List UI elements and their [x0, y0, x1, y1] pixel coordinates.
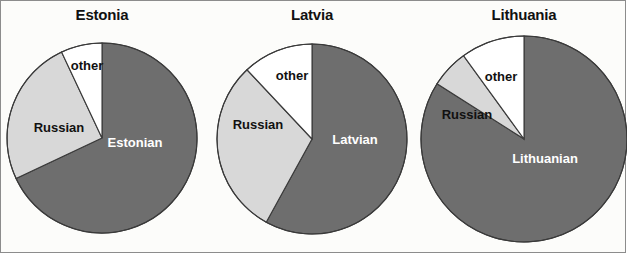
slice-label-latvia-other: other — [276, 68, 309, 83]
chart-title-lithuania: Lithuania — [424, 6, 624, 23]
slice-label-estonia-estonian: Estonian — [108, 135, 163, 150]
pie-chart-estonia: EstonianRussianother — [7, 43, 197, 233]
pie-chart-latvia: LatvianRussianother — [217, 44, 407, 234]
chart-title-estonia: Estonia — [2, 6, 202, 23]
slice-label-lithuania-russian: Russian — [442, 107, 493, 122]
chart-title-latvia: Latvia — [212, 6, 412, 23]
pie-chart-lithuania: LithuanianRussianother — [421, 36, 627, 242]
slice-label-estonia-other: other — [71, 58, 104, 73]
slice-label-estonia-russian: Russian — [34, 120, 85, 135]
slice-label-lithuania-lithuanian: Lithuanian — [512, 151, 578, 166]
slice-label-latvia-russian: Russian — [233, 117, 284, 132]
slice-label-latvia-latvian: Latvian — [332, 132, 378, 147]
pie-charts-svg: EstonianRussianotherLatvianRussianotherL… — [1, 1, 627, 253]
slice-label-lithuania-other: other — [485, 69, 518, 84]
